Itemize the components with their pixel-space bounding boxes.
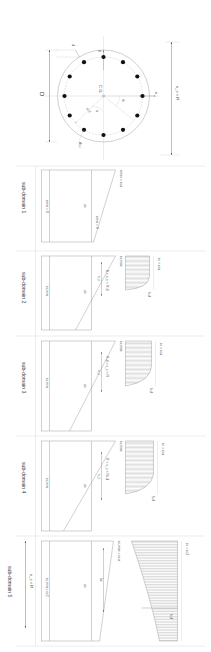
- subdomain-label-3: sub-domain 3: [20, 362, 25, 393]
- sd4-sigma-label: εs,min: [44, 478, 47, 488]
- sd5-stress-block: [131, 541, 177, 641]
- sd2-stress-block: [125, 256, 149, 290]
- rebar-dot: [135, 113, 139, 117]
- rebar-dot: [67, 113, 71, 117]
- sd5-fcd-label: fcd: [168, 614, 171, 619]
- sd1-eps-min-label: εmin = 0: [94, 216, 97, 229]
- sd2-sigma-s-label: σs: [82, 290, 85, 294]
- xc-lt-R-label: x_c < R: [28, 574, 32, 588]
- sd4-xc-label: x_c: [96, 474, 99, 479]
- subdomain-1-panel: [41, 170, 115, 242]
- subdomain-4-panel: [41, 441, 157, 531]
- rebar-dot: [67, 74, 71, 78]
- cover-label: d: [70, 44, 73, 46]
- sd4-fcd-label: fcd: [150, 496, 153, 501]
- y-axis-label: y: [97, 50, 101, 52]
- sd5-section-rect: [41, 541, 91, 641]
- sd3-eps-max-label: εs,max: [118, 341, 121, 352]
- sd1-sigma-label: εmin = 0: [44, 200, 47, 213]
- xc-gt-R-label: x_c > R: [174, 86, 178, 100]
- sd2-eps-max-label: εs,max: [118, 256, 121, 267]
- sd1-strain-line: [93, 170, 115, 242]
- sd2-xc-label: x_c: [96, 276, 99, 281]
- sd4-stress-block: [125, 441, 153, 494]
- sd4-eps-max-label: εs,max: [118, 441, 121, 452]
- sd5-xc-label: λx: [98, 578, 101, 581]
- sd5-eps-max-label: εc,max = εcu: [116, 541, 119, 561]
- centroid-label: C.G: [97, 85, 101, 92]
- sd2-sigma-label: εs,min: [44, 286, 47, 296]
- rebar-dot: [140, 94, 144, 98]
- subdomain-label-2: sub-domain 2: [20, 272, 25, 303]
- subdomain-2-panel: [41, 256, 153, 330]
- sd5-stress-label: εc = εc2: [184, 543, 187, 555]
- rebar-dot: [81, 60, 85, 64]
- cross-section-group: [43, 36, 159, 160]
- sd3-sigma-s-label: σs: [82, 384, 85, 388]
- sd3-stress-block: [125, 341, 151, 386]
- theta-arc: [116, 96, 119, 106]
- sd4-strain-line: [63, 441, 115, 531]
- subdomain-label-1: sub-domain 1: [20, 182, 25, 213]
- sd3-stress-label: εc = εcu: [158, 343, 161, 355]
- sd3-range-label: R-d < x_c < R: [104, 356, 107, 377]
- bar-area-label: As,i: [77, 142, 80, 148]
- sd2-range-label: 0 < x_c < R-d: [104, 270, 107, 290]
- rebar-dot: [135, 74, 139, 78]
- theta-ray: [103, 96, 133, 120]
- sd4-stress-label: εc = εcu: [160, 443, 163, 455]
- figure-canvas: D d C.G R-d θi α As,i x y x_c > R x_c < …: [0, 0, 211, 652]
- sd1-sigma-s-label: σs: [82, 204, 85, 208]
- sd3-fcd-label: fcd: [148, 388, 151, 393]
- sd5-strain-line: [99, 541, 113, 641]
- rebar-dot: [120, 128, 124, 132]
- x-axis-label: x: [153, 92, 157, 94]
- rebar-dot: [101, 133, 105, 137]
- subdomain-label-4: sub-domain 4: [20, 462, 25, 493]
- rebar-dot: [101, 55, 105, 59]
- subdomain-label-5: sub-domain 5: [6, 566, 11, 597]
- diameter-label: D: [38, 92, 44, 96]
- rebar-dot: [62, 94, 66, 98]
- sd3-sigma-label: εs,min: [44, 378, 47, 388]
- sd2-stress-label: εc < εcu: [156, 258, 159, 270]
- sd3-strain-line: [69, 341, 115, 431]
- sd1-eps-max-label: εmax = εsu: [118, 170, 121, 187]
- figure-stage: D d C.G R-d θi α As,i x y x_c > R x_c < …: [0, 0, 211, 652]
- subdomain-5-panel: [41, 541, 181, 641]
- sd5-sigma-s-label: σs: [82, 584, 85, 588]
- cover-leader-1: [75, 50, 79, 57]
- sd2-fcd-label: fcd: [146, 292, 149, 297]
- sd5-sigma-label: εc,min = εc2: [44, 578, 47, 597]
- sd4-sigma-s-label: σs: [82, 484, 85, 488]
- sd3-xc-label: x_c: [96, 370, 99, 375]
- sd4-range-label: R < x_c < R+d: [104, 458, 107, 480]
- rebar-dot: [120, 60, 124, 64]
- rebar-dot: [81, 128, 85, 132]
- subdomain-3-panel: [41, 341, 155, 431]
- sd2-strain-line: [75, 256, 115, 330]
- alpha-label: α: [94, 110, 97, 112]
- theta-label: θi: [120, 99, 123, 102]
